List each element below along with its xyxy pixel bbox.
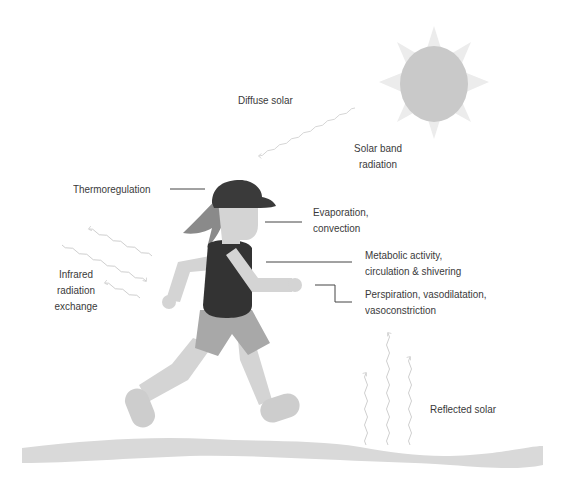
label-infrared-line1: Infrared (47, 266, 105, 282)
label-reflected-solar: Reflected solar (430, 401, 496, 417)
label-evaporation-line1: Evaporation, (313, 204, 369, 220)
label-perspiration-line2: vasoconstriction (365, 302, 487, 318)
runner-front-hand (288, 278, 302, 292)
ground (22, 438, 543, 468)
label-solar-band-line2: radiation (344, 156, 413, 172)
label-evaporation-convection: Evaporation, convection (313, 204, 369, 236)
label-diffuse-solar: Diffuse solar (238, 92, 293, 108)
reflected-solar-arrows (365, 333, 412, 445)
solar-band-arrow (259, 108, 355, 156)
label-infrared-line3: exchange (47, 298, 105, 314)
runner-back-hand (162, 295, 176, 309)
label-solar-band-line1: Solar band (344, 140, 413, 156)
perspiration-leader (315, 285, 352, 302)
label-perspiration-line1: Perspiration, vasodilatation, (365, 286, 487, 302)
label-metabolic-line1: Metabolic activity, (365, 247, 461, 263)
label-perspiration: Perspiration, vasodilatation, vasoconstr… (365, 286, 487, 318)
sun-icon (379, 26, 489, 139)
runner-cap (212, 180, 276, 208)
label-solar-band-radiation: Solar band radiation (344, 140, 413, 172)
runner-figure (121, 180, 302, 431)
label-infrared-radiation-exchange: Infrared radiation exchange (47, 266, 105, 314)
label-infrared-line2: radiation (47, 282, 105, 298)
label-metabolic-activity: Metabolic activity, circulation & shiver… (365, 247, 461, 279)
label-metabolic-line2: circulation & shivering (365, 263, 461, 279)
runner-neck (222, 236, 240, 244)
label-thermoregulation: Thermoregulation (73, 181, 151, 197)
sun-disc (400, 46, 468, 122)
label-evaporation-line2: convection (313, 220, 369, 236)
